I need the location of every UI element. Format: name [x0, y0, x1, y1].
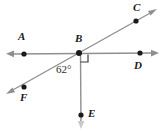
point-label-D: D	[134, 60, 142, 71]
angle-measure-label: 62°	[56, 64, 71, 75]
line-FC-arrow-upper-right	[148, 9, 157, 15]
point-A-dot	[21, 51, 26, 56]
line-AD-arrow-left	[6, 51, 14, 58]
point-label-A: A	[18, 31, 25, 42]
right-angle-marker	[81, 55, 89, 63]
point-label-F: F	[20, 92, 27, 103]
line-AD-segment	[10, 53, 155, 54]
geometry-diagram: A B C D E F 62°	[0, 0, 161, 133]
point-F-dot	[21, 84, 26, 89]
point-D-dot	[137, 50, 142, 55]
ray-BE-arrow-down	[78, 121, 85, 129]
line-FC-arrow-lower-left	[6, 88, 15, 94]
point-label-B: B	[75, 33, 82, 44]
point-C-dot	[133, 18, 138, 23]
point-E-dot	[78, 112, 83, 117]
point-label-C: C	[133, 2, 140, 13]
point-B-dot	[76, 50, 82, 56]
ray-BE	[78, 54, 85, 129]
point-label-E: E	[88, 108, 95, 119]
line-AD-arrow-right	[151, 50, 159, 57]
